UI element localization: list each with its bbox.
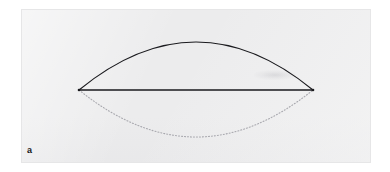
- figure-root: a: [0, 0, 390, 172]
- panel-label: a: [27, 144, 32, 156]
- upper-arc-path: [79, 42, 313, 90]
- right-vertex-marker: [312, 89, 315, 92]
- lower-arc-path: [79, 90, 313, 137]
- lens-diagram: [0, 0, 390, 172]
- left-vertex-marker: [78, 89, 81, 92]
